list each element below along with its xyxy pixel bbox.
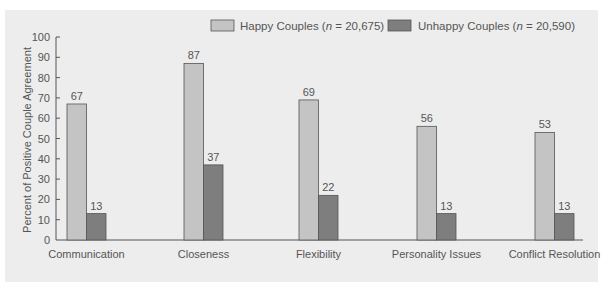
y-tick-label: 80 xyxy=(38,72,50,84)
y-tick-label: 50 xyxy=(38,133,50,145)
bar-happy-closeness xyxy=(184,63,204,240)
bar-unhappy-closeness xyxy=(204,165,224,240)
bars-group: 67138737692256135313 xyxy=(67,49,574,240)
y-tick-label: 20 xyxy=(38,193,50,205)
legend-label-unhappy: Unhappy Couples (n = 20,590) xyxy=(418,20,575,32)
y-tick-label: 40 xyxy=(38,153,50,165)
bar-value-label: 22 xyxy=(322,181,334,193)
y-tick-label: 10 xyxy=(38,214,50,226)
x-category-label: Communication xyxy=(48,248,124,260)
bar-value-label: 67 xyxy=(71,90,83,102)
bar-value-label: 13 xyxy=(440,200,452,212)
legend-swatch-unhappy xyxy=(388,20,411,31)
y-axis-label: Percent of Positive Couple Agreement xyxy=(21,47,33,233)
x-category-label: Personality Issues xyxy=(392,248,482,260)
x-category-label: Closeness xyxy=(178,248,230,260)
x-category-label: Conflict Resolution xyxy=(509,248,601,260)
bar-value-label: 37 xyxy=(207,151,219,163)
legend-swatch-happy xyxy=(211,20,234,31)
bar-happy-flexibility xyxy=(299,100,319,240)
y-tick-label: 70 xyxy=(38,92,50,104)
bar-value-label: 87 xyxy=(188,49,200,61)
bar-chart: 0102030405060708090100 67138737692256135… xyxy=(0,0,607,287)
bar-value-label: 13 xyxy=(558,200,570,212)
bar-value-label: 53 xyxy=(539,118,551,130)
bar-unhappy-conflict-resolution xyxy=(555,214,575,240)
legend: Happy Couples (n = 20,675) Unhappy Coupl… xyxy=(211,20,575,32)
bar-value-label: 56 xyxy=(421,112,433,124)
bar-unhappy-personality-issues xyxy=(437,214,457,240)
legend-label-happy: Happy Couples (n = 20,675) xyxy=(240,20,384,32)
bar-happy-personality-issues xyxy=(417,126,437,240)
bar-unhappy-communication xyxy=(87,214,107,240)
y-tick-label: 100 xyxy=(32,31,50,43)
bar-value-label: 13 xyxy=(90,200,102,212)
bar-happy-conflict-resolution xyxy=(535,132,555,240)
y-tick-label: 90 xyxy=(38,51,50,63)
bar-happy-communication xyxy=(67,104,87,240)
bar-value-label: 69 xyxy=(303,86,315,98)
x-axis-labels: CommunicationClosenessFlexibilityPersona… xyxy=(48,248,600,260)
bar-unhappy-flexibility xyxy=(319,195,339,240)
y-tick-label: 0 xyxy=(44,234,50,246)
y-tick-label: 30 xyxy=(38,173,50,185)
y-tick-label: 60 xyxy=(38,112,50,124)
x-category-label: Flexibility xyxy=(296,248,342,260)
